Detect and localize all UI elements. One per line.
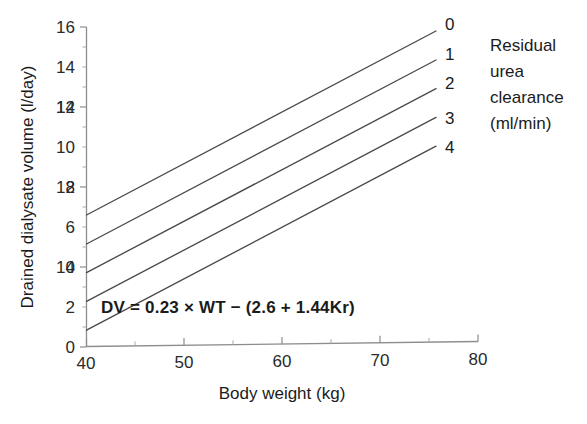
y-tick-label-10b: 10	[56, 138, 75, 157]
x-axis-title: Body weight (kg)	[219, 384, 346, 403]
data-line-kr-3	[87, 117, 437, 301]
y-axis-title: Drained dialysate volume (l/day)	[18, 66, 37, 309]
series-label-0: 0	[445, 15, 454, 34]
data-line-kr-2	[87, 89, 437, 273]
data-line-kr-0	[87, 31, 437, 215]
y-axis-ticks	[80, 27, 87, 347]
y-tick-label-6: 6	[66, 218, 75, 237]
y-tick-label-4: 4	[66, 258, 75, 277]
legend-line-units: (ml/min)	[490, 114, 551, 133]
legend-line-residual: Residual	[490, 36, 556, 55]
x-tick-label-50: 50	[175, 353, 194, 372]
x-tick-label-70: 70	[371, 351, 390, 370]
y-tick-label-8: 8	[66, 178, 75, 197]
series-label-3: 3	[445, 109, 454, 128]
series-label-1: 1	[445, 45, 454, 64]
legend-line-urea: urea	[490, 62, 525, 81]
x-tick-label-60: 60	[273, 352, 292, 371]
y-tick-label-16: 16	[56, 18, 75, 37]
chart-figure: 16 14 12 10 14 12 10 8 6 4 2 0	[0, 0, 587, 424]
line-chart-canvas: 16 14 12 10 14 12 10 8 6 4 2 0	[0, 0, 587, 424]
series-label-2: 2	[445, 74, 454, 93]
legend-line-clearance: clearance	[490, 88, 564, 107]
x-tick-label-80: 80	[469, 350, 488, 369]
data-line-kr-1	[87, 60, 437, 244]
series-label-4: 4	[445, 138, 454, 157]
x-axis-ticks	[87, 335, 479, 347]
equation-annotation: DV = 0.23 × WT − (2.6 + 1.44Kr)	[101, 298, 355, 317]
y-tick-labels-lower: 14 12 10 8 6 4 2 0	[56, 58, 75, 357]
x-tick-label-40: 40	[77, 354, 96, 373]
y-tick-label-14b: 14	[56, 58, 75, 77]
legend-title-block: Residual urea clearance (ml/min)	[490, 36, 564, 133]
y-tick-label-0: 0	[66, 338, 75, 357]
y-tick-label-2: 2	[66, 298, 75, 317]
y-tick-label-12b: 12	[56, 98, 75, 117]
